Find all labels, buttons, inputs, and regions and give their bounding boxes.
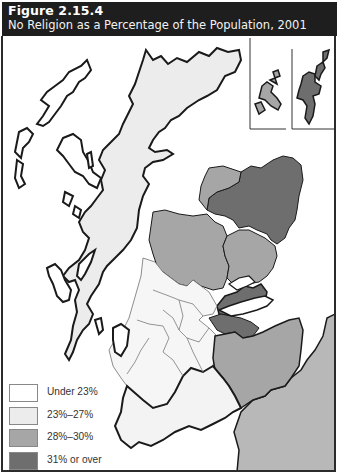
figure-title: No Religion as a Percentage of the Popul… xyxy=(8,18,307,32)
legend-label: 31% or over xyxy=(47,453,102,465)
legend-swatch xyxy=(9,407,38,425)
figure: Figure 2.15.4 No Religion as a Percentag… xyxy=(0,0,339,475)
figure-header: Figure 2.15.4 No Religion as a Percentag… xyxy=(2,2,337,36)
legend-label: Under 23% xyxy=(47,385,98,397)
legend-swatch xyxy=(9,384,38,402)
legend-label: 23%–27% xyxy=(47,408,93,420)
legend-label: 28%–30% xyxy=(47,430,93,442)
inset-orkney-shetland xyxy=(250,38,335,129)
figure-number: Figure 2.15.4 xyxy=(8,3,103,18)
orkney-islands xyxy=(255,70,281,114)
legend-swatch xyxy=(9,452,38,470)
legend-swatch xyxy=(9,429,38,447)
shetland-islands xyxy=(297,50,329,124)
